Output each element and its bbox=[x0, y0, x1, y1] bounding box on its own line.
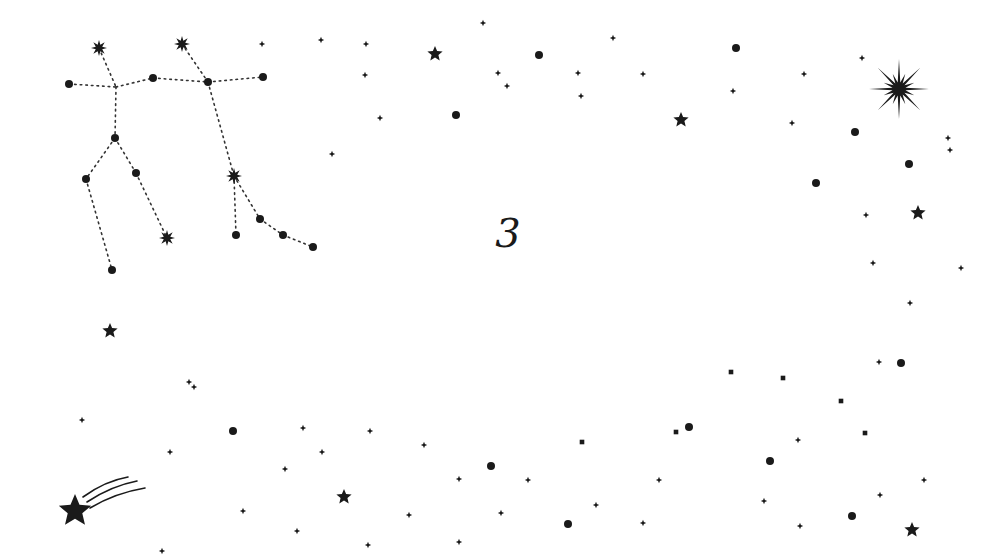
dot-star-icon bbox=[848, 512, 856, 520]
diamond-star-icon bbox=[504, 83, 510, 89]
dot-star-icon bbox=[851, 128, 859, 136]
background-stars bbox=[79, 20, 964, 554]
dot-star-icon bbox=[452, 111, 460, 119]
diamond-star-icon bbox=[159, 548, 165, 554]
diamond-star-icon bbox=[877, 492, 883, 498]
diamond-star-icon bbox=[79, 417, 85, 423]
diamond-star-icon bbox=[870, 260, 876, 266]
constellation-lines bbox=[69, 44, 313, 270]
dot-star-icon bbox=[564, 520, 572, 528]
dot-star-icon bbox=[309, 243, 317, 251]
diamond-star-icon bbox=[365, 542, 371, 548]
constellation-line bbox=[115, 138, 136, 173]
five-point-star-icon bbox=[673, 112, 688, 126]
diamond-star-icon bbox=[801, 71, 807, 77]
constellation-line bbox=[153, 78, 208, 82]
constellation-line bbox=[116, 78, 153, 87]
dot-star-icon bbox=[232, 231, 240, 239]
diamond-star-icon bbox=[610, 35, 616, 41]
diamond-star-icon bbox=[945, 135, 951, 141]
diamond-star-icon bbox=[240, 508, 246, 514]
dot-star-icon bbox=[149, 74, 157, 82]
dot-star-icon bbox=[229, 427, 237, 435]
dot-star-icon bbox=[487, 462, 495, 470]
diamond-star-icon bbox=[186, 379, 192, 385]
diamond-star-icon bbox=[797, 523, 803, 529]
five-point-star-icon bbox=[427, 46, 442, 60]
five-point-star-icon bbox=[910, 205, 925, 219]
constellation-line bbox=[283, 235, 313, 247]
diamond-star-icon bbox=[789, 120, 795, 126]
constellation-line bbox=[115, 87, 116, 138]
diamond-star-icon bbox=[294, 528, 300, 534]
diamond-star-icon bbox=[421, 442, 427, 448]
constellation-line bbox=[208, 77, 263, 82]
diamond-star-icon bbox=[191, 384, 197, 390]
diamond-star-icon bbox=[406, 512, 412, 518]
diamond-star-icon bbox=[859, 55, 865, 61]
diamond-star-icon bbox=[921, 477, 927, 483]
constellation-line bbox=[208, 82, 234, 176]
square-star-icon bbox=[839, 399, 844, 404]
dot-star-icon bbox=[812, 179, 820, 187]
constellation-line bbox=[234, 176, 236, 235]
square-star-icon bbox=[863, 431, 868, 436]
diamond-star-icon bbox=[259, 41, 265, 47]
diamond-star-icon bbox=[947, 147, 953, 153]
constellation-line bbox=[99, 48, 116, 87]
diamond-star-icon bbox=[656, 477, 662, 483]
diamond-star-icon bbox=[640, 520, 646, 526]
diamond-star-icon bbox=[362, 72, 368, 78]
constellation-line bbox=[234, 176, 260, 219]
burst-star-icon bbox=[91, 40, 107, 56]
diamond-star-icon bbox=[575, 70, 581, 76]
center-numeral: 3 bbox=[488, 208, 528, 258]
diamond-star-icon bbox=[730, 88, 736, 94]
diamond-star-icon bbox=[367, 428, 373, 434]
constellation-line bbox=[260, 219, 283, 235]
diamond-star-icon bbox=[863, 212, 869, 218]
diamond-star-icon bbox=[498, 510, 504, 516]
dot-star-icon bbox=[256, 215, 264, 223]
dot-star-icon bbox=[766, 457, 774, 465]
constellation-line bbox=[136, 173, 167, 238]
square-star-icon bbox=[580, 440, 585, 445]
five-point-star-icon bbox=[904, 522, 919, 536]
feature-stars bbox=[59, 46, 929, 536]
diamond-star-icon bbox=[377, 115, 383, 121]
diamond-star-icon bbox=[480, 20, 486, 26]
burst-star-icon bbox=[226, 168, 242, 184]
constellation-line bbox=[182, 44, 208, 82]
dot-star-icon bbox=[897, 359, 905, 367]
star-field-canvas bbox=[0, 0, 981, 560]
shooting-star-icon bbox=[59, 477, 145, 525]
diamond-star-icon bbox=[640, 71, 646, 77]
diamond-star-icon bbox=[578, 93, 584, 99]
dot-star-icon bbox=[535, 51, 543, 59]
constellation-line bbox=[86, 179, 112, 270]
dot-star-icon bbox=[82, 175, 90, 183]
diamond-star-icon bbox=[593, 502, 599, 508]
diamond-star-icon bbox=[495, 70, 501, 76]
square-star-icon bbox=[781, 376, 786, 381]
diamond-star-icon bbox=[456, 476, 462, 482]
diamond-star-icon bbox=[329, 151, 335, 157]
diamond-star-icon bbox=[167, 449, 173, 455]
dot-star-icon bbox=[905, 160, 913, 168]
square-star-icon bbox=[729, 370, 734, 375]
constellation-line bbox=[86, 138, 115, 179]
dot-star-icon bbox=[204, 78, 212, 86]
diamond-star-icon bbox=[300, 425, 306, 431]
dot-star-icon bbox=[279, 231, 287, 239]
dot-star-icon bbox=[65, 80, 73, 88]
dot-star-icon bbox=[259, 73, 267, 81]
diamond-star-icon bbox=[318, 37, 324, 43]
dot-star-icon bbox=[132, 169, 140, 177]
dot-star-icon bbox=[108, 266, 116, 274]
square-star-icon bbox=[674, 430, 679, 435]
constellation-line bbox=[69, 84, 116, 87]
dot-star-icon bbox=[732, 44, 740, 52]
diamond-star-icon bbox=[958, 265, 964, 271]
diamond-star-icon bbox=[319, 449, 325, 455]
burst-star-icon bbox=[174, 36, 190, 52]
